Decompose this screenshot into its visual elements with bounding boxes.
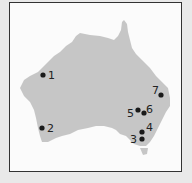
- marker-label-5: 5: [127, 107, 134, 120]
- location-marker-5: [135, 107, 140, 112]
- marker-label-6: 6: [146, 103, 153, 116]
- marker-label-7: 7: [152, 84, 159, 97]
- location-marker-4: [139, 129, 144, 134]
- marker-label-2: 2: [47, 122, 54, 135]
- marker-label-3: 3: [130, 133, 137, 146]
- tasmania: [140, 148, 148, 155]
- location-marker-2: [39, 125, 44, 130]
- location-marker-3: [139, 136, 144, 141]
- location-marker-7: [158, 92, 163, 97]
- marker-label-4: 4: [146, 121, 153, 134]
- australia-map: 1234567: [0, 0, 192, 183]
- marker-label-1: 1: [48, 69, 55, 82]
- location-marker-1: [40, 72, 45, 77]
